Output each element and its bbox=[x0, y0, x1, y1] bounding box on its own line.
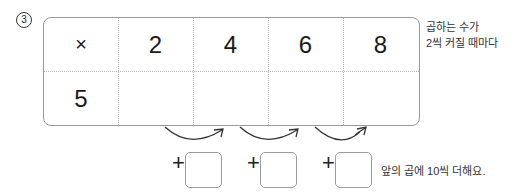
answer-cell[interactable] bbox=[118, 72, 193, 125]
hint-top-line: 곱하는 수가 bbox=[426, 19, 498, 35]
answer-cell[interactable] bbox=[343, 72, 418, 125]
plus-sign: + bbox=[247, 150, 260, 176]
header-cell: 2 bbox=[118, 18, 193, 71]
hint-top-line: 2씩 커질 때마다 bbox=[426, 35, 498, 51]
increment-answer-box[interactable] bbox=[185, 152, 222, 188]
increment-answer-box[interactable] bbox=[260, 152, 297, 188]
multiply-sign-cell: × bbox=[44, 18, 118, 71]
curved-arrows-icon bbox=[160, 122, 360, 152]
increment-answer-box[interactable] bbox=[335, 152, 372, 188]
plus-sign: + bbox=[322, 150, 335, 176]
multiplication-table: × 2 4 6 8 5 bbox=[43, 17, 420, 126]
header-cell: 6 bbox=[268, 18, 343, 71]
problem-number-badge: 3 bbox=[16, 12, 32, 28]
header-cell: 8 bbox=[343, 18, 418, 71]
curved-arrow-icon bbox=[355, 122, 385, 152]
header-cell: 4 bbox=[193, 18, 268, 71]
plus-sign: + bbox=[172, 150, 185, 176]
multiplier-cell: 5 bbox=[44, 72, 118, 125]
hint-top: 곱하는 수가 2씩 커질 때마다 bbox=[426, 19, 498, 51]
answer-cell[interactable] bbox=[193, 72, 268, 125]
hint-bottom: 앞의 곱에 10씩 더해요. bbox=[381, 162, 485, 178]
answer-cell[interactable] bbox=[268, 72, 343, 125]
